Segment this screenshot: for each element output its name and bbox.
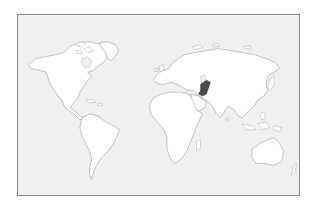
continent-north-america: [28, 42, 107, 120]
new-zealand: [292, 163, 297, 175]
sri-lanka: [226, 118, 228, 121]
southeast-asia-islands: [242, 112, 282, 132]
continent-south-america: [80, 114, 120, 179]
madagascar: [197, 140, 201, 152]
continent-australia: [252, 138, 284, 166]
map-frame: [17, 14, 300, 196]
caribbean-islands: [86, 99, 103, 106]
arctic-islands-eurasia: [193, 44, 251, 50]
world-map: [18, 15, 299, 195]
british-isles: [155, 64, 164, 71]
japan: [268, 76, 275, 90]
